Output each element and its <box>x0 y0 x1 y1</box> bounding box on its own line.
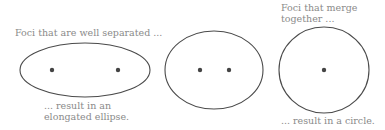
elongated-ellipse <box>20 43 150 97</box>
label-elongated-line1: ... result in an <box>44 100 111 111</box>
focus-point-left-2 <box>116 68 120 72</box>
focus-point-middle-1 <box>198 68 202 72</box>
focus-point-middle-2 <box>227 68 231 72</box>
label-circle: ... result in a circle. <box>281 115 375 126</box>
label-merge-line1: Foci that merge <box>281 2 357 13</box>
focus-point-center <box>322 68 326 72</box>
label-well-separated: Foci that are well separated ... <box>15 27 162 38</box>
label-merge-line2: together ... <box>281 13 334 24</box>
moderate-ellipse <box>165 31 263 109</box>
focus-point-left-1 <box>50 68 54 72</box>
label-elongated-line2: elongated ellipse. <box>44 111 129 122</box>
